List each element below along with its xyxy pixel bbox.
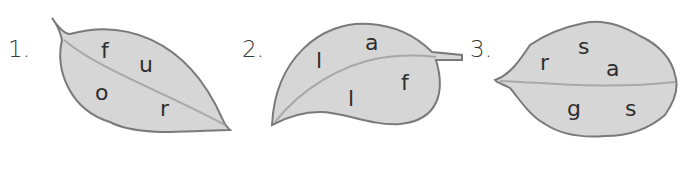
scrambled-letter: a [365,32,378,54]
scrambled-letter: a [606,58,619,80]
scrambled-letter: f [401,72,409,94]
scrambled-letter: r [540,52,549,74]
scrambled-letter: s [625,98,636,120]
scrambled-letter: l [348,88,354,110]
scrambled-letter: u [139,54,153,76]
scrambled-letter: s [578,36,589,58]
scrambled-letter: o [95,82,108,104]
scrambled-letter: g [567,98,581,120]
scrambled-letter: f [101,40,109,62]
puzzle-number: 1. [8,36,30,62]
puzzle-number: 2. [242,36,264,62]
puzzle-number: 3. [470,36,492,62]
scrambled-letter: r [160,98,169,120]
scrambled-letter: l [316,50,322,72]
